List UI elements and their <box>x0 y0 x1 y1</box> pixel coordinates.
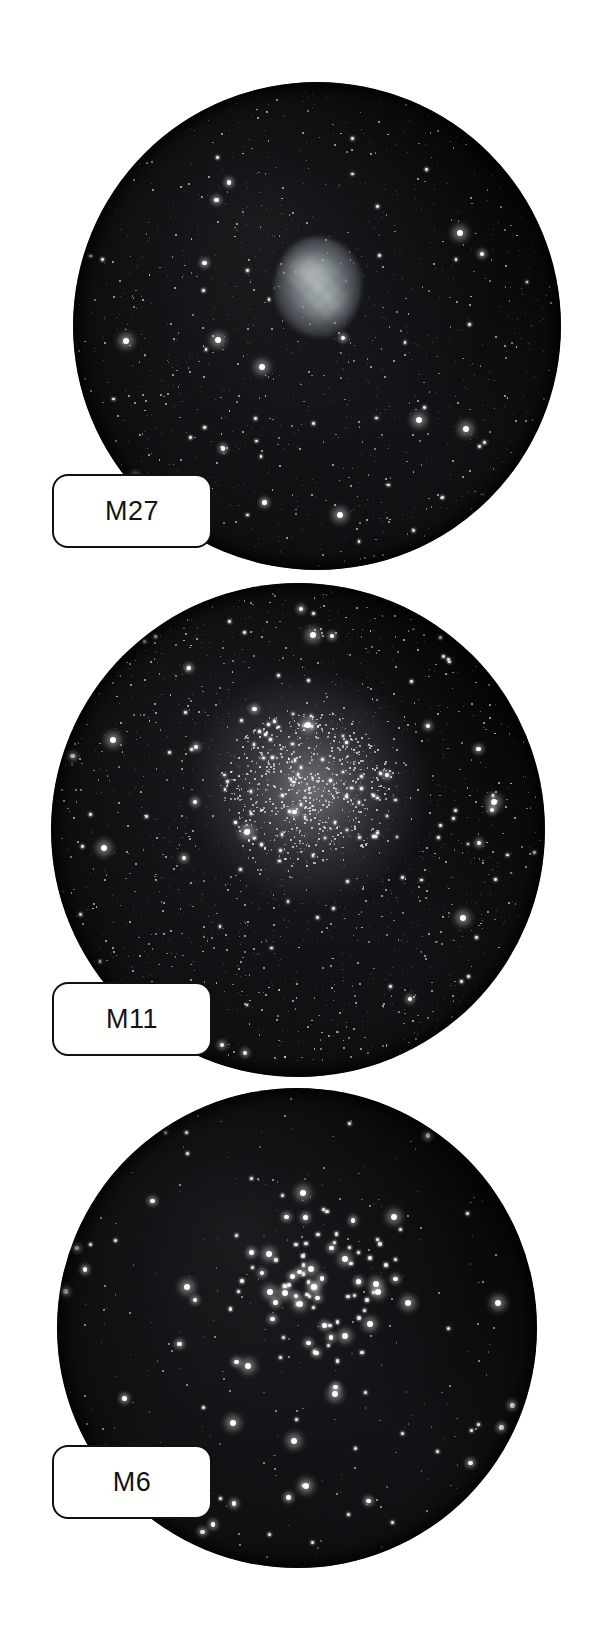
star <box>295 509 296 510</box>
star <box>400 330 401 331</box>
star <box>407 1215 409 1217</box>
star <box>335 1232 338 1235</box>
star <box>280 730 282 732</box>
star <box>312 805 314 807</box>
star <box>449 406 450 407</box>
star <box>489 431 490 432</box>
star <box>196 276 197 277</box>
star <box>382 615 383 616</box>
star <box>272 489 274 491</box>
star <box>358 421 360 423</box>
object-label-m6[interactable]: M6 <box>52 1445 212 1519</box>
star <box>298 715 300 717</box>
star <box>459 769 460 770</box>
star <box>358 821 360 823</box>
star <box>336 728 338 730</box>
star <box>122 343 123 344</box>
star <box>300 803 303 806</box>
star <box>318 638 319 639</box>
star <box>150 975 151 976</box>
star <box>305 298 306 299</box>
star <box>291 753 293 755</box>
star <box>312 216 313 217</box>
star <box>455 258 458 261</box>
star <box>424 1404 425 1405</box>
star <box>500 188 501 189</box>
star <box>281 879 282 880</box>
star <box>452 460 454 462</box>
star <box>334 991 335 992</box>
star <box>474 174 475 175</box>
star <box>245 1363 251 1369</box>
star <box>313 799 315 801</box>
star <box>288 920 289 921</box>
star <box>290 858 292 860</box>
star <box>202 691 203 692</box>
star <box>279 855 281 857</box>
star <box>528 343 529 344</box>
eyepiece-views-page: M27 M11 M6 <box>0 0 593 1636</box>
star <box>149 238 150 239</box>
object-label-m11[interactable]: M11 <box>52 982 212 1056</box>
star <box>259 364 265 370</box>
star <box>279 905 280 906</box>
star <box>294 772 295 773</box>
star <box>273 720 276 723</box>
star <box>337 724 338 725</box>
object-label-m27[interactable]: M27 <box>52 474 212 548</box>
star <box>203 873 204 874</box>
star <box>284 116 285 117</box>
star <box>123 293 124 294</box>
star <box>406 797 407 798</box>
star <box>471 930 472 931</box>
star <box>404 728 405 729</box>
star <box>525 777 526 778</box>
star <box>187 667 190 670</box>
star <box>349 339 350 340</box>
star <box>299 777 301 779</box>
star <box>278 437 279 438</box>
star <box>260 752 262 754</box>
star <box>471 249 472 250</box>
star <box>351 748 353 750</box>
star <box>290 721 291 722</box>
star <box>136 732 137 733</box>
star <box>255 802 257 804</box>
star <box>122 464 123 465</box>
star <box>482 344 483 345</box>
star <box>236 898 237 899</box>
star <box>500 306 501 307</box>
star <box>232 682 233 683</box>
star <box>391 1521 394 1524</box>
star <box>172 367 173 368</box>
star <box>426 1133 431 1138</box>
star <box>323 1167 325 1169</box>
star <box>243 631 246 634</box>
star <box>335 774 337 776</box>
star <box>104 1285 106 1287</box>
star <box>376 1499 378 1501</box>
star <box>508 315 509 316</box>
star <box>279 849 282 852</box>
star <box>101 751 102 752</box>
star <box>346 795 347 796</box>
star <box>220 188 221 189</box>
star <box>330 743 332 745</box>
star <box>288 757 289 758</box>
star <box>294 1294 299 1299</box>
star <box>339 1012 341 1014</box>
star <box>350 342 351 343</box>
star <box>372 760 373 761</box>
star <box>385 979 386 980</box>
star <box>372 746 373 747</box>
star <box>245 820 247 822</box>
star <box>358 833 360 835</box>
star <box>221 133 223 135</box>
star <box>199 848 200 849</box>
star <box>135 769 136 770</box>
star <box>289 686 290 687</box>
star <box>314 748 316 750</box>
star <box>448 916 449 917</box>
star <box>273 1455 274 1456</box>
star <box>277 1436 278 1437</box>
